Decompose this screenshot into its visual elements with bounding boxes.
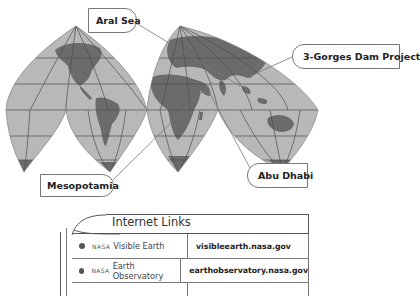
- callout-label: 3-Gorges Dam Project: [303, 51, 420, 62]
- table-inner-rule: [66, 228, 67, 296]
- callout-abu-dhabi: Abu Dhabi: [247, 163, 308, 188]
- link-name-cell: NASA Earth Observatory: [72, 259, 181, 282]
- link-name-cell: NASA Visible Earth: [72, 234, 188, 258]
- link-name: Visible Earth: [113, 241, 164, 251]
- link-name: Earth Observatory: [113, 261, 181, 281]
- table-title: Internet Links: [112, 215, 191, 229]
- table-row-partial: [72, 282, 309, 296]
- bullet-icon: [79, 268, 84, 274]
- partial-cell: [72, 283, 188, 296]
- bullet-icon: [79, 243, 85, 249]
- callout-three-gorges-dam: 3-Gorges Dam Project: [292, 44, 400, 69]
- callout-aral-sea: Aral Sea: [88, 8, 137, 33]
- table-row: NASA Visible Earth visibleearth.nasa.gov: [72, 234, 309, 258]
- link-url[interactable]: earthobservatory.nasa.gov: [181, 266, 308, 275]
- link-org: NASA: [92, 243, 110, 250]
- link-org: NASA: [91, 267, 109, 274]
- callout-mesopotamia: Mesopotamia: [40, 174, 114, 197]
- table-outer-rule: [60, 232, 61, 296]
- callout-label: Mesopotamia: [47, 180, 119, 191]
- link-url[interactable]: visibleearth.nasa.gov: [188, 242, 308, 251]
- table-row: NASA Earth Observatory earthobservatory.…: [72, 258, 309, 282]
- callout-label: Aral Sea: [96, 15, 141, 26]
- callout-label: Abu Dhabi: [258, 170, 313, 181]
